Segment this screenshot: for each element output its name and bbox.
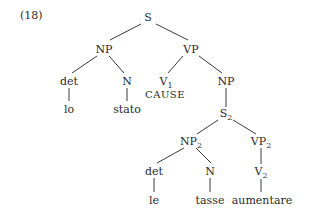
leaf-aumentare: aumentare (232, 195, 292, 207)
leaf-cause: CAUSE (145, 89, 185, 101)
node-N2: N (205, 166, 215, 178)
leaf-lo: lo (64, 104, 74, 116)
node-VP2: VP2 (251, 136, 271, 148)
leaf-stato: stato (113, 104, 141, 116)
tree-edges (0, 0, 312, 216)
node-NP-object: NP (217, 76, 234, 88)
node-S: S (144, 12, 152, 24)
node-V1: V1 (159, 76, 172, 88)
node-VP: VP (183, 44, 198, 56)
node-det: det (60, 76, 78, 88)
node-N: N (122, 76, 132, 88)
node-NP2: NP2 (180, 136, 202, 148)
leaf-tasse: tasse (196, 195, 225, 207)
node-S2: S2 (220, 108, 233, 120)
leaf-le: le (149, 195, 159, 207)
node-NP: NP (95, 44, 112, 56)
node-V2: V2 (254, 166, 267, 178)
node-det2: det (145, 166, 163, 178)
